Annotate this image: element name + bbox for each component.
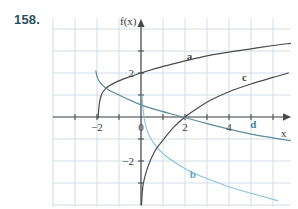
y-tick-label: 2 [129, 67, 135, 79]
curves [96, 43, 291, 205]
x-tick-label: 2 [182, 121, 188, 133]
x-tick-label: −2 [91, 121, 103, 133]
curve-label-b: b [190, 168, 196, 180]
curve-b [142, 95, 277, 201]
x-tick-label: 4 [226, 121, 232, 133]
grid-lines [53, 18, 291, 207]
x-axis-label: x [281, 127, 287, 139]
figure-container: 158. −20242−2 f(x) x abcd [0, 0, 298, 209]
x-axis-arrow [283, 113, 291, 121]
axes [53, 19, 291, 205]
curve-label-c: c [242, 71, 247, 83]
y-axis-arrow [137, 19, 144, 27]
y-tick-label: −2 [122, 155, 134, 167]
curve-label-a: a [187, 50, 193, 62]
curve-labels: abcd [187, 50, 257, 180]
y-axis-label: f(x) [120, 15, 137, 28]
x-tick-label: 0 [138, 121, 144, 133]
curve-label-d: d [250, 118, 256, 130]
coordinate-plot: −20242−2 f(x) x abcd [0, 0, 298, 209]
